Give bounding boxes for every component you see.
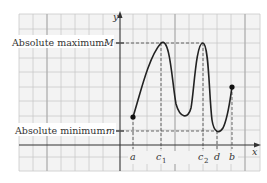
tick-d: d (214, 151, 220, 162)
x-axis-label: x (252, 146, 258, 157)
endpoint-b-dot (229, 84, 234, 89)
tick-b: b (229, 151, 235, 162)
abs-max-var: M (103, 37, 114, 48)
abs-min-text: Absolute minimum: (14, 125, 109, 136)
y-axis-label: y (112, 11, 119, 22)
endpoint-a-dot (130, 114, 135, 119)
max-label: Absolute maximum: M (10, 35, 114, 48)
x-tick-labels: a c 1 c 2 d b (128, 151, 238, 165)
min-label: Absolute minimum: m (14, 123, 116, 136)
abs-min-var: m (106, 125, 115, 136)
tick-a: a (130, 151, 136, 162)
tick-c1-sub: 1 (162, 157, 166, 165)
extrema-graph: y x Absolute maximum: M Absolute minimum… (0, 0, 267, 183)
abs-max-text: Absolute maximum: (11, 37, 108, 48)
tick-c2-sub: 2 (204, 157, 208, 165)
